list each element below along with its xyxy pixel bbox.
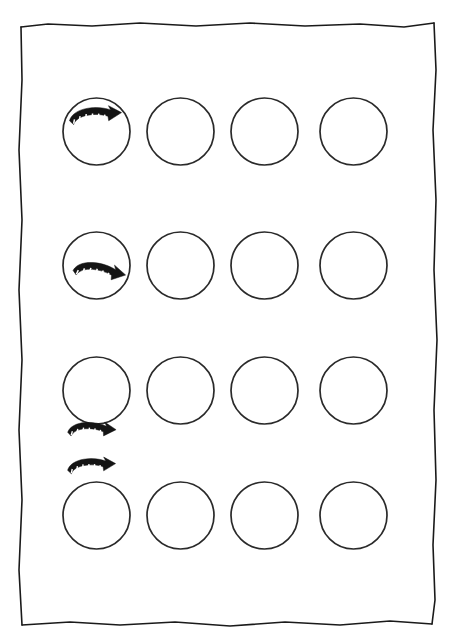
grid-circle-r3c3[interactable] (231, 357, 298, 424)
figure-canvas (0, 0, 454, 642)
frame-right-edge (432, 23, 437, 624)
grid-circle-r1c4[interactable] (320, 98, 387, 165)
frame-top-edge (21, 23, 434, 27)
grid-circle-r2c4[interactable] (320, 232, 387, 299)
figure-svg (0, 0, 454, 642)
grid-circle-r3c1[interactable] (63, 357, 130, 424)
grid-circle-r3c4[interactable] (320, 357, 387, 424)
grid-circle-r3c2[interactable] (147, 357, 214, 424)
grid-circle-r1c2[interactable] (147, 98, 214, 165)
curved-arrow-row-4[interactable] (67, 456, 116, 474)
grid-circle-r4c1[interactable] (63, 482, 130, 549)
grid-circle-r2c3[interactable] (231, 232, 298, 299)
grid-circle-r1c3[interactable] (231, 98, 298, 165)
grid-circle-r4c3[interactable] (231, 482, 298, 549)
grid-circle-r4c2[interactable] (147, 482, 214, 549)
grid-circle-r4c4[interactable] (320, 482, 387, 549)
grid-circle-r2c2[interactable] (147, 232, 214, 299)
frame-left-edge (19, 27, 22, 625)
frame-bottom-edge (22, 621, 432, 626)
circle-grid (63, 98, 387, 549)
curved-arrow-row-3[interactable] (68, 421, 117, 438)
